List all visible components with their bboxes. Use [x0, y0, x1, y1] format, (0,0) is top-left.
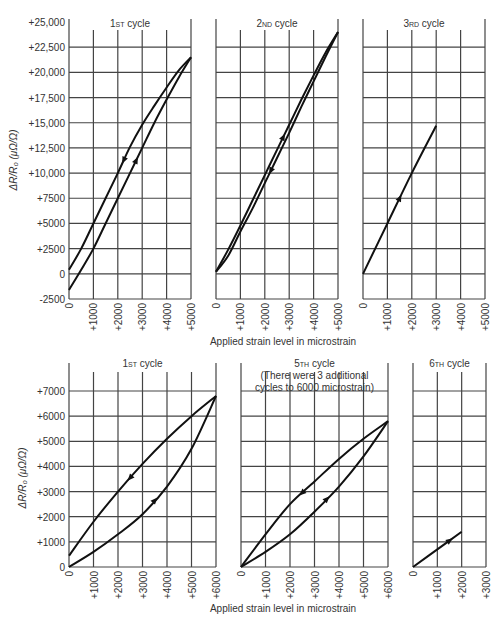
- x-tick-label: +2000: [113, 303, 124, 332]
- x-tick-label: +4000: [309, 303, 320, 332]
- y-tick-label: +2000: [37, 512, 66, 523]
- x-tick-label: +2000: [260, 303, 271, 332]
- x-tick-label: +3000: [138, 571, 149, 600]
- direction-arrow-icon: [132, 156, 140, 165]
- x-tick-label: +4000: [162, 303, 173, 332]
- y-tick-label: +5000: [37, 218, 66, 229]
- x-tick-label: +2000: [285, 571, 296, 600]
- x-tick-label: +2000: [407, 303, 418, 332]
- x-tick-label: +3000: [310, 571, 321, 600]
- y-tick-label: +2500: [37, 244, 66, 255]
- chart-panel-2: 0+1000+2000+3000+4000+50002ND cycle: [211, 18, 344, 331]
- y-tick-label: +10,000: [29, 168, 66, 179]
- y-axis-title: ΔR/R₀ (μΩ/Ω): [17, 447, 28, 509]
- x-tick-label: +1000: [235, 303, 246, 332]
- strain-gauge-hysteresis-figure: 0+1000+2000+3000+4000+50001ST cycle0+100…: [0, 0, 496, 621]
- x-tick-label: +4000: [162, 571, 173, 600]
- x-tick-label: +5000: [480, 303, 491, 332]
- x-tick-label: +2000: [457, 571, 468, 600]
- y-tick-label: +12,500: [29, 143, 66, 154]
- x-tick-label: +4000: [456, 303, 467, 332]
- y-tick-label: +6000: [37, 411, 66, 422]
- x-tick-label: +1000: [432, 571, 443, 600]
- x-tick-label: +5000: [186, 303, 197, 332]
- x-tick-label: +6000: [383, 571, 394, 600]
- y-tick-label: +20,000: [29, 67, 66, 78]
- y-tick-label: 0: [59, 562, 65, 573]
- y-tick-label: +3000: [37, 487, 66, 498]
- x-tick-label: +6000: [211, 571, 222, 600]
- x-tick-label: 0: [64, 571, 75, 577]
- x-tick-label: +5000: [333, 303, 344, 332]
- x-tick-label: 0: [64, 303, 75, 309]
- x-tick-label: 0: [358, 303, 369, 309]
- y-tick-label: -2500: [39, 294, 65, 305]
- chart-panel-1: 0+1000+2000+3000+4000+50001ST cycle: [64, 18, 197, 331]
- x-tick-label: +5000: [187, 571, 198, 600]
- panel-title: 5TH cycle: [294, 358, 335, 369]
- x-axis-title: Applied strain level in microstrain: [210, 336, 356, 347]
- x-tick-label: +2000: [113, 571, 124, 600]
- x-tick-label: +1000: [382, 303, 393, 332]
- y-tick-label: +25,000: [29, 17, 66, 28]
- x-axis-title: Applied strain level in microstrain: [210, 603, 356, 614]
- x-tick-label: +3000: [481, 571, 492, 600]
- direction-arrow-icon: [119, 156, 127, 165]
- x-tick-label: 0: [236, 571, 247, 577]
- x-tick-label: 0: [211, 303, 222, 309]
- x-tick-label: +1000: [88, 303, 99, 332]
- y-tick-label: +1000: [37, 537, 66, 548]
- x-tick-label: +3000: [284, 303, 295, 332]
- y-tick-label: +15,000: [29, 118, 66, 129]
- panel-title: 6TH cycle: [429, 358, 470, 369]
- x-tick-label: +3000: [431, 303, 442, 332]
- chart-panel-6: 0+1000+2000+30006TH cycle: [408, 358, 492, 599]
- panel-title: 2ND cycle: [256, 18, 298, 29]
- chart-panel-5: 0+1000+2000+3000+4000+5000+60005TH cycle…: [236, 358, 394, 599]
- x-tick-label: +1000: [261, 571, 272, 600]
- x-tick-label: +1000: [89, 571, 100, 600]
- panel-subtitle: (There were 3 additional: [261, 370, 369, 381]
- panel-title: 1ST cycle: [122, 358, 163, 369]
- y-axis-title: ΔR/R₀ (μΩ/Ω): [8, 129, 19, 191]
- panel-subtitle: cycles to 6000 microstrain): [255, 382, 374, 393]
- x-tick-label: +5000: [359, 571, 370, 600]
- y-tick-label: +22,500: [29, 42, 66, 53]
- panel-title: 1ST cycle: [110, 18, 151, 29]
- y-tick-label: 0: [59, 269, 65, 280]
- chart-panel-3: 0+1000+2000+3000+4000+50003RD cycle: [358, 18, 491, 331]
- x-tick-label: 0: [408, 571, 419, 577]
- y-tick-label: +7500: [37, 193, 66, 204]
- chart-panel-4: 0+1000+2000+3000+4000+5000+60001ST cycle: [64, 358, 222, 599]
- x-tick-label: +3000: [137, 303, 148, 332]
- x-tick-label: +4000: [334, 571, 345, 600]
- panel-title: 3RD cycle: [403, 18, 445, 29]
- y-tick-label: +17,500: [29, 93, 66, 104]
- y-tick-label: +5000: [37, 436, 66, 447]
- y-tick-label: +7000: [37, 386, 66, 397]
- y-tick-label: +4000: [37, 461, 66, 472]
